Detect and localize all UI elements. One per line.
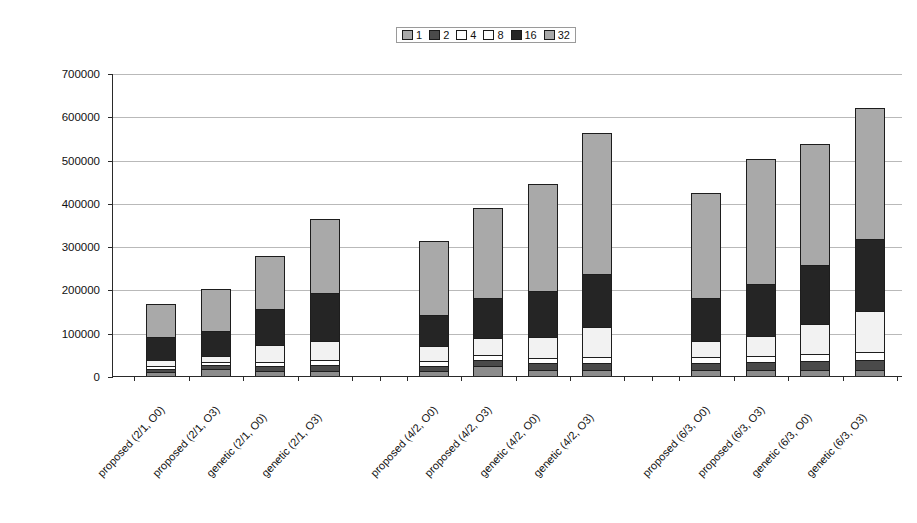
bar-8[interactable]: [582, 133, 612, 376]
bar-segment-16: [855, 239, 885, 310]
bar-segment-2: [855, 360, 885, 370]
bar-segment-16: [582, 274, 612, 327]
bar-segment-2: [691, 363, 721, 370]
y-axis-tick-label: 0: [94, 372, 100, 383]
bar-segment-16: [146, 337, 176, 360]
legend-item-32: 32: [544, 30, 570, 41]
x-axis-tick: [516, 376, 517, 381]
y-axis-tick-label: 400000: [62, 198, 100, 209]
x-axis-label-12: genetic (6/3, O3): [804, 411, 869, 479]
bar-segment-1: [255, 371, 285, 376]
x-axis-tick: [298, 376, 299, 381]
legend-label-16: 16: [525, 30, 537, 41]
legend-item-1: 1: [402, 30, 422, 41]
legend-swatch-1: [402, 30, 413, 40]
y-axis-tick-label: 700000: [62, 69, 100, 80]
bar-segment-2: [800, 361, 830, 370]
y-axis-tick-label: 500000: [62, 155, 100, 166]
x-axis-tick: [652, 376, 653, 381]
bar-11[interactable]: [800, 144, 830, 376]
bar-segment-8: [691, 341, 721, 358]
bar-segment-32: [473, 208, 503, 298]
y-axis-tick-label: 300000: [62, 242, 100, 253]
bar-segment-8: [800, 324, 830, 354]
chart-legend: 1 2 4 8 16 32: [396, 27, 576, 43]
legend-label-32: 32: [558, 30, 570, 41]
bar-segment-2: [582, 363, 612, 370]
x-axis-tick: [570, 376, 571, 381]
bar-segment-8: [473, 338, 503, 355]
bar-segment-1: [201, 369, 231, 376]
bar-5[interactable]: [419, 241, 449, 376]
bar-segment-16: [201, 331, 231, 356]
legend-swatch-32: [544, 30, 555, 40]
bar-segment-1: [146, 372, 176, 376]
legend-label-8: 8: [497, 30, 503, 41]
bar-segment-16: [473, 298, 503, 338]
stacked-bar-chart: 1 2 4 8 16 32 Extra Area Cost 0100000200…: [0, 0, 917, 523]
legend-item-4: 4: [456, 30, 476, 41]
bar-segment-8: [310, 341, 340, 360]
legend-item-2: 2: [429, 30, 449, 41]
bar-segment-1: [310, 371, 340, 376]
bar-segment-8: [582, 327, 612, 357]
bar-segment-2: [746, 362, 776, 370]
bar-2[interactable]: [201, 289, 231, 376]
bar-10[interactable]: [746, 159, 776, 376]
x-axis-tick: [788, 376, 789, 381]
bar-segment-32: [146, 304, 176, 337]
bar-segment-8: [855, 311, 885, 352]
bar-segment-1: [582, 370, 612, 376]
bar-6[interactable]: [473, 208, 503, 376]
bar-segment-16: [528, 291, 558, 337]
bar-segment-16: [800, 265, 830, 323]
x-axis-label-4: genetic (2/1, O3): [259, 411, 324, 479]
legend-item-16: 16: [511, 30, 537, 41]
x-axis-tick: [624, 376, 625, 381]
x-axis-tick: [461, 376, 462, 381]
bar-segment-32: [528, 184, 558, 291]
legend-swatch-8: [483, 30, 494, 40]
x-axis-tick: [843, 376, 844, 381]
bar-segment-32: [746, 159, 776, 284]
x-axis-tick: [380, 376, 381, 381]
bar-segment-32: [582, 133, 612, 274]
legend-swatch-16: [511, 30, 522, 40]
bar-segment-8: [528, 337, 558, 358]
bar-3[interactable]: [255, 256, 285, 376]
bar-segment-16: [255, 309, 285, 344]
bar-segment-32: [201, 289, 231, 331]
bar-segment-32: [855, 108, 885, 240]
y-axis-tick: [108, 377, 113, 378]
bar-segment-1: [419, 371, 449, 376]
y-axis-tick-label: 100000: [62, 328, 100, 339]
bar-segment-2: [528, 363, 558, 370]
x-axis-tick: [243, 376, 244, 381]
bar-series-container: [113, 74, 902, 376]
bar-9[interactable]: [691, 193, 721, 376]
bar-segment-1: [528, 370, 558, 376]
x-axis-tick: [407, 376, 408, 381]
legend-swatch-4: [456, 30, 467, 40]
bar-12[interactable]: [855, 108, 885, 376]
x-axis-tick: [679, 376, 680, 381]
bar-segment-8: [419, 346, 449, 361]
legend-label-4: 4: [470, 30, 476, 41]
y-axis-tick-label: 600000: [62, 112, 100, 123]
y-axis-tick-labels: 0100000200000300000400000500000600000700…: [0, 74, 108, 377]
legend-label-1: 1: [416, 30, 422, 41]
legend-swatch-2: [429, 30, 440, 40]
bar-segment-32: [691, 193, 721, 298]
bar-7[interactable]: [528, 184, 558, 376]
x-axis-tick: [734, 376, 735, 381]
bar-4[interactable]: [310, 219, 340, 376]
bar-segment-32: [800, 144, 830, 266]
bar-1[interactable]: [146, 304, 176, 376]
plot-area: [112, 74, 902, 377]
bar-segment-32: [419, 241, 449, 315]
x-axis-label-3: genetic (2/1, O0): [204, 411, 269, 479]
bar-segment-16: [310, 293, 340, 341]
bar-segment-4: [800, 354, 830, 361]
bar-segment-16: [419, 315, 449, 347]
legend-label-2: 2: [443, 30, 449, 41]
